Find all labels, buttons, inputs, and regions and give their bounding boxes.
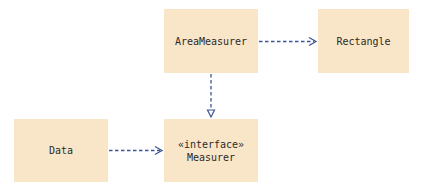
dependency-arrow-data-measurer: [109, 147, 162, 155]
realization-arrow-areameasurer-measurer: [208, 74, 215, 117]
connector-layer: [0, 0, 422, 193]
dependency-arrow-areameasurer-rectangle: [259, 38, 316, 46]
